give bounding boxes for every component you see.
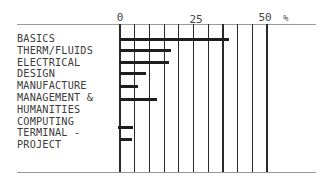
gridline-45 bbox=[252, 24, 253, 172]
bar-basics bbox=[120, 38, 229, 41]
gridline-25 bbox=[193, 24, 194, 172]
row-label-manufacture: MANUFACTURE bbox=[17, 80, 87, 91]
row-label-computing: COMPUTING bbox=[17, 116, 74, 127]
top-axis-line bbox=[17, 24, 316, 25]
gridline-15 bbox=[164, 24, 165, 172]
x-tick-0: 0 bbox=[117, 12, 124, 23]
gridline-30 bbox=[208, 24, 209, 172]
horizontal-bar-chart: 0 25 50 % BASICS THERM/FLUIDS ELECTRICAL… bbox=[0, 0, 330, 184]
row-label-humanities: HUMANITIES bbox=[17, 104, 80, 115]
bar-electrical bbox=[119, 61, 169, 64]
gridline-40 bbox=[237, 24, 238, 172]
x-tick-25: 25 bbox=[189, 14, 202, 25]
bar-management-humanities bbox=[120, 98, 157, 101]
row-label-design: DESIGN bbox=[17, 68, 55, 79]
gridline-35 bbox=[222, 24, 223, 172]
bar-therm-fluids bbox=[120, 49, 171, 52]
gridline-50 bbox=[266, 24, 267, 172]
row-label-electrical: ELECTRICAL bbox=[17, 57, 80, 68]
row-label-therm-fluids: THERM/FLUIDS bbox=[17, 45, 93, 56]
bar-design bbox=[120, 72, 146, 75]
bottom-axis-line bbox=[17, 172, 316, 173]
x-tick-50: 50 bbox=[258, 12, 271, 23]
row-label-project: PROJECT bbox=[17, 139, 61, 150]
bar-computing bbox=[118, 126, 133, 129]
row-label-terminal: TERMINAL - bbox=[17, 127, 80, 138]
row-label-basics: BASICS bbox=[17, 33, 55, 44]
bar-manufacture bbox=[120, 85, 138, 88]
x-unit-label: % bbox=[283, 13, 288, 23]
gridline-20 bbox=[178, 24, 179, 172]
bar-terminal-project bbox=[120, 138, 132, 141]
row-label-management: MANAGEMENT & bbox=[17, 92, 93, 103]
